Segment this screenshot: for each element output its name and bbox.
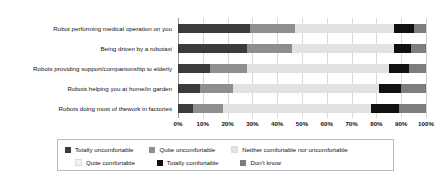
category-label: Being driven by a robotaxi	[0, 45, 172, 52]
category-label: Robots providing support/companionship t…	[0, 65, 172, 72]
bar-row	[178, 44, 426, 53]
bar-row	[178, 104, 426, 113]
legend-label: Totally uncomfortable	[75, 146, 133, 153]
x-axis-tick-label: 20%	[221, 120, 233, 128]
plot-area	[178, 18, 426, 118]
legend-item-totally-comfortable: Totally comfortable	[157, 156, 219, 169]
legend-item-dont-know: Don't know	[240, 156, 280, 169]
bar-segment	[411, 44, 426, 53]
x-axis-tick-label: 40%	[271, 120, 283, 128]
bar-segment	[379, 84, 401, 93]
bar-segment	[371, 104, 398, 113]
bar-segment	[401, 84, 426, 93]
legend-item-totally-uncomfortable: Totally uncomfortable	[65, 143, 133, 156]
legend-swatch-icon	[149, 147, 155, 153]
bar-segment	[414, 24, 426, 33]
bar-segment	[193, 104, 223, 113]
bar-segment	[247, 64, 388, 73]
x-axis-tick-label: 10%	[197, 120, 209, 128]
bar-row	[178, 64, 426, 73]
bar-segment	[394, 44, 411, 53]
bar-segment	[292, 44, 394, 53]
legend-label: Quite uncomfortable	[159, 146, 215, 153]
gridline	[426, 18, 427, 118]
legend-swatch-icon	[240, 160, 246, 166]
legend-swatch-icon	[157, 160, 163, 166]
bar-segment	[178, 104, 193, 113]
legend-row: Totally uncomfortable Quite uncomfortabl…	[63, 143, 388, 156]
bar-row	[178, 84, 426, 93]
legend-label: Neither comfortable nor uncomfortable	[242, 146, 348, 153]
bar-segment	[178, 24, 250, 33]
bar-row	[178, 24, 426, 33]
legend-row: Quite comfortable Totally comfortable Do…	[63, 156, 388, 169]
x-axis-tick-label: 0%	[174, 120, 183, 128]
legend-label: Quite comfortable	[86, 159, 135, 166]
category-label: Robots doing most of thework in factorie…	[0, 105, 172, 112]
bar-segment	[223, 104, 372, 113]
x-axis-tick-label: 50%	[296, 120, 308, 128]
bar-segment	[178, 64, 210, 73]
category-axis-labels: Robot performing medical operation on yo…	[0, 18, 176, 118]
legend-label: Totally comfortable	[167, 159, 219, 166]
x-axis-tick-label: 90%	[395, 120, 407, 128]
chart-legend: Totally uncomfortable Quite uncomfortabl…	[57, 139, 394, 171]
legend-swatch-icon	[75, 159, 82, 166]
category-label: Robots helping you at home/in garden	[0, 85, 172, 92]
bar-segment	[200, 84, 232, 93]
legend-swatch-icon	[65, 147, 71, 153]
bar-segment	[399, 104, 426, 113]
x-axis-tick-label: 70%	[345, 120, 357, 128]
bar-segment	[295, 24, 394, 33]
x-axis-tick-label: 80%	[370, 120, 382, 128]
legend-item-neither: Neither comfortable nor uncomfortable	[231, 143, 348, 156]
legend-label: Don't know	[250, 159, 280, 166]
bar-segment	[394, 24, 414, 33]
legend-swatch-icon	[231, 146, 238, 153]
bar-segment	[250, 24, 295, 33]
stacked-bar-chart: Robot performing medical operation on yo…	[0, 0, 446, 180]
bar-segment	[389, 64, 409, 73]
bar-segment	[247, 44, 292, 53]
bar-segment	[210, 64, 247, 73]
bar-segment	[233, 84, 379, 93]
bar-segment	[178, 44, 247, 53]
x-axis-tick-label: 30%	[246, 120, 258, 128]
bar-segment	[409, 64, 426, 73]
bar-rows	[178, 18, 426, 118]
x-axis-tick-label: 100%	[418, 120, 434, 128]
legend-item-quite-comfortable: Quite comfortable	[75, 156, 135, 169]
legend-item-quite-uncomfortable: Quite uncomfortable	[149, 143, 215, 156]
bar-segment	[178, 84, 200, 93]
category-label: Robot performing medical operation on yo…	[0, 25, 172, 32]
x-axis-ticks: 0%10%20%30%40%50%60%70%80%90%100%	[178, 120, 426, 132]
x-axis-tick-label: 60%	[321, 120, 333, 128]
